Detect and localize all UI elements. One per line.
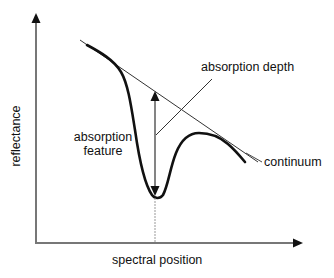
y-axis-arrowhead-icon	[32, 13, 41, 23]
up-arrowhead-icon	[151, 91, 160, 101]
absorption-feature-line2: feature	[72, 144, 134, 158]
x-axis-label: spectral position	[112, 253, 202, 267]
absorption-depth-leader	[156, 79, 212, 135]
continuum-leader	[246, 153, 262, 162]
x-axis	[35, 239, 303, 248]
absorption-feature-line1: absorption	[72, 130, 134, 144]
continuum-label: continuum	[264, 155, 322, 169]
absorption-depth-label: absorption depth	[201, 60, 294, 74]
absorption-depth-arrow	[151, 91, 160, 196]
x-axis-arrowhead-icon	[293, 239, 303, 248]
diagram-canvas	[0, 0, 334, 278]
y-axis-label: reflectance	[9, 105, 23, 166]
absorption-feature-label: absorption feature	[72, 130, 134, 158]
y-axis	[32, 13, 41, 243]
absorption-feature-diagram: reflectance spectral position absorption…	[0, 0, 334, 278]
